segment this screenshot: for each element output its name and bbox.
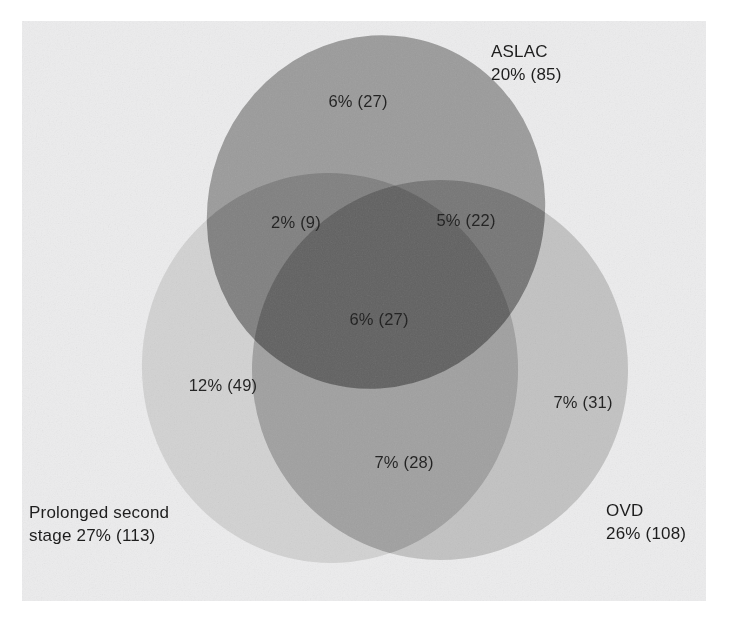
region-label-aslac-ovd: 5% (22) xyxy=(436,211,495,229)
set-title-aslac-line2: 20% (85) xyxy=(491,65,562,84)
region-label-aslac-prolonged: 2% (9) xyxy=(271,213,321,231)
region-label-ovd-only: 7% (31) xyxy=(553,393,612,411)
set-title-prolonged-line2: stage 27% (113) xyxy=(29,526,155,545)
region-label-aslac-only: 6% (27) xyxy=(328,92,387,110)
set-title-ovd-line1: OVD xyxy=(606,501,643,520)
region-label-aslac-prolonged-ovd: 6% (27) xyxy=(349,310,408,328)
venn-figure-root: 6% (27) 2% (9) 5% (22) 6% (27) 12% (49) … xyxy=(0,0,730,622)
region-label-prolonged-ovd: 7% (28) xyxy=(374,453,433,471)
venn-ellipse-group xyxy=(123,0,641,582)
venn-diagram-svg: 6% (27) 2% (9) 5% (22) 6% (27) 12% (49) … xyxy=(0,0,730,622)
region-label-prolonged-only: 12% (49) xyxy=(189,376,258,394)
set-title-prolonged-line1: Prolonged second xyxy=(29,503,169,522)
set-title-ovd-line2: 26% (108) xyxy=(606,524,686,543)
set-title-aslac-line1: ASLAC xyxy=(491,42,548,61)
